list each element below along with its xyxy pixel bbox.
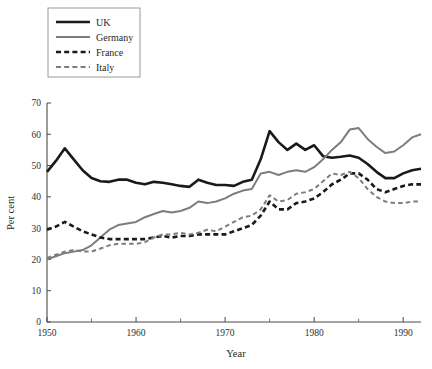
legend-label-uk: UK bbox=[96, 17, 111, 28]
y-tick-label: 70 bbox=[32, 98, 42, 108]
y-tick-label: 30 bbox=[32, 224, 42, 234]
y-tick-label: 50 bbox=[32, 161, 42, 171]
x-tick-label: 1950 bbox=[38, 328, 57, 338]
line-chart: 010203040506070 19501960197019801990 Per… bbox=[0, 0, 432, 369]
series-line-france bbox=[47, 173, 421, 239]
y-axis: 010203040506070 bbox=[32, 98, 52, 327]
y-axis-ticks: 010203040506070 bbox=[32, 98, 52, 327]
series-lines bbox=[47, 128, 421, 259]
y-tick-label: 0 bbox=[36, 317, 41, 327]
series-line-germany bbox=[47, 128, 421, 259]
y-axis-title: Per cent bbox=[5, 196, 16, 230]
x-tick-label: 1970 bbox=[216, 328, 235, 338]
x-tick-label: 1960 bbox=[127, 328, 146, 338]
legend-label-italy: Italy bbox=[96, 62, 114, 73]
x-axis-title: Year bbox=[226, 348, 246, 359]
y-tick-label: 40 bbox=[32, 192, 42, 202]
x-axis-ticks: 19501960197019801990 bbox=[38, 317, 413, 338]
y-tick-label: 20 bbox=[32, 255, 42, 265]
legend-label-france: France bbox=[96, 47, 124, 58]
x-tick-label: 1990 bbox=[394, 328, 413, 338]
legend-label-germany: Germany bbox=[96, 32, 133, 43]
y-tick-label: 60 bbox=[32, 130, 42, 140]
y-tick-label: 10 bbox=[32, 286, 42, 296]
x-tick-label: 1980 bbox=[305, 328, 324, 338]
x-axis: 19501960197019801990 bbox=[38, 317, 422, 338]
chart-container: 010203040506070 19501960197019801990 Per… bbox=[0, 0, 432, 369]
chart-legend: UKGermanyFranceItaly bbox=[48, 8, 140, 77]
